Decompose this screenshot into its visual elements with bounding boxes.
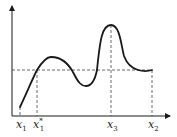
axis-point-labels: x1x*1x3x2 — [16, 117, 159, 133]
label-x1: x1 — [16, 118, 27, 133]
function-graph-diagram: x1x*1x3x2 — [0, 0, 177, 137]
dashed-guides — [12, 25, 152, 116]
function-curve — [20, 25, 152, 107]
label-x2: x2 — [148, 118, 159, 133]
label-x1-star: x*1 — [33, 117, 44, 133]
label-x3: x3 — [107, 118, 118, 133]
